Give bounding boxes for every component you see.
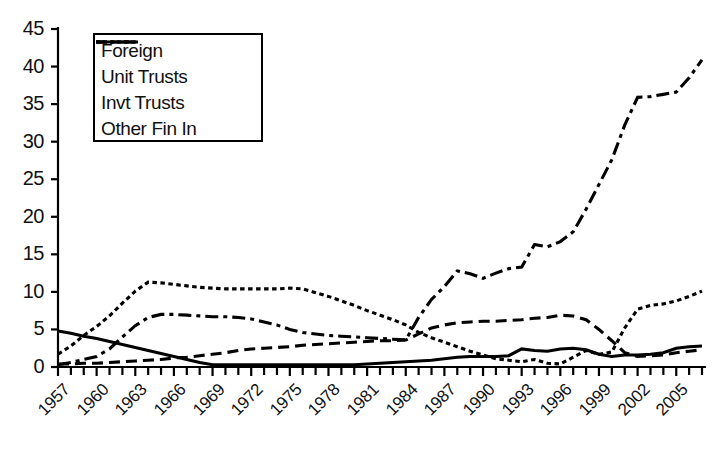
- chart-figure: Foreign Unit Trusts Invt Trusts Other Fi…: [0, 0, 716, 451]
- y-axis-tick-label: 45: [4, 17, 44, 40]
- legend-item-invt-trusts: Invt Trusts: [95, 89, 261, 115]
- y-axis-tick-label: 0: [4, 355, 44, 378]
- y-axis-tick-label: 30: [4, 130, 44, 153]
- legend-label-unit-trusts: Unit Trusts: [101, 67, 187, 86]
- legend-item-unit-trusts: Unit Trusts: [95, 63, 261, 89]
- y-axis-tick-label: 40: [4, 55, 44, 78]
- chart-legend: Foreign Unit Trusts Invt Trusts Other Fi…: [93, 33, 263, 142]
- y-axis-tick-label: 20: [4, 205, 44, 228]
- y-axis-tick-label: 15: [4, 242, 44, 265]
- legend-item-other-fin-in: Other Fin In: [95, 115, 261, 141]
- series-line-invt-trusts: [58, 331, 702, 365]
- y-axis-tick-label: 25: [4, 167, 44, 190]
- legend-label-invt-trusts: Invt Trusts: [101, 93, 184, 112]
- y-axis-tick-label: 35: [4, 92, 44, 115]
- y-axis-tick-label: 10: [4, 280, 44, 303]
- legend-key-other-fin-in: [95, 35, 139, 49]
- y-axis-tick-label: 5: [4, 317, 44, 340]
- legend-label-other-fin-in: Other Fin In: [101, 119, 197, 138]
